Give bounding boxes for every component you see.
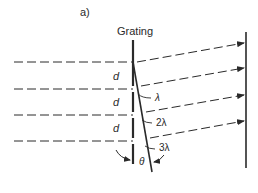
path-difference-label: λ xyxy=(154,92,160,103)
spacing-label-d: d xyxy=(113,70,120,82)
diffraction-grating-diagram: a) Grating d d d λ 2λ 3λ θ xyxy=(0,0,258,193)
grating-label: Grating xyxy=(117,25,153,37)
leader-line xyxy=(145,146,155,149)
leader-line xyxy=(138,94,151,98)
path-difference-label: 2λ xyxy=(156,117,167,128)
panel-label: a) xyxy=(80,6,90,18)
diffracted-ray xyxy=(141,68,244,86)
diffracted-rays xyxy=(137,43,244,138)
angle-arrow-left xyxy=(116,150,130,160)
path-difference-label: 3λ xyxy=(159,142,170,153)
spacing-label-d: d xyxy=(113,96,120,108)
spacing-label-d: d xyxy=(113,122,120,134)
angle-label-theta: θ xyxy=(139,156,145,167)
diffracted-ray xyxy=(137,43,244,62)
diffracted-ray xyxy=(146,95,244,112)
angle-arrow-right xyxy=(154,155,164,162)
